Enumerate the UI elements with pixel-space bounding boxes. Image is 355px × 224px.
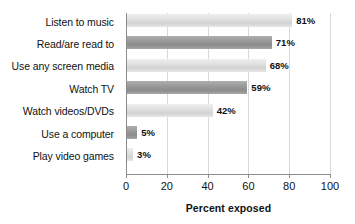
- x-tick-mark: [167, 174, 168, 178]
- top-cropped-artifact: [180, 0, 300, 5]
- x-tick-mark: [289, 174, 290, 178]
- x-tick-label: 0: [106, 180, 146, 192]
- bar-value-label: 59%: [251, 81, 270, 94]
- category-label: Read/are read to: [37, 38, 114, 51]
- x-tick-label: 20: [147, 180, 187, 192]
- bar: [127, 81, 247, 94]
- bar: [127, 14, 292, 27]
- bar-value-label: 42%: [217, 104, 236, 117]
- bar: [127, 126, 137, 139]
- bar-value-label: 5%: [141, 126, 155, 139]
- x-tick-label: 100: [310, 180, 350, 192]
- x-axis-line: [126, 174, 331, 175]
- category-label: Listen to music: [45, 16, 114, 29]
- x-tick-label: 60: [228, 180, 268, 192]
- x-tick-label: 80: [269, 180, 309, 192]
- bar: [127, 104, 213, 117]
- bar-chart: Listen to musicRead/are read toUse any s…: [0, 0, 355, 224]
- category-label: Play video games: [33, 150, 114, 163]
- category-label: Use any screen media: [12, 60, 114, 73]
- bar: [127, 36, 272, 49]
- x-tick-mark: [330, 174, 331, 178]
- bar-value-label: 81%: [296, 14, 315, 27]
- bar-value-label: 71%: [276, 36, 295, 49]
- bar-value-label: 3%: [137, 148, 151, 161]
- plot-area: 81%71%68%59%42%5%3%: [126, 13, 330, 174]
- x-tick-mark: [208, 174, 209, 178]
- x-tick-mark: [126, 174, 127, 178]
- x-tick-label: 40: [188, 180, 228, 192]
- bar: [127, 59, 266, 72]
- category-label: Watch TV: [69, 83, 114, 96]
- bar-value-label: 68%: [270, 59, 289, 72]
- category-label: Use a computer: [41, 128, 114, 141]
- category-label: Watch videos/DVDs: [23, 105, 114, 118]
- x-axis-title: Percent exposed: [126, 202, 331, 214]
- gridline: [330, 13, 331, 174]
- x-tick-mark: [248, 174, 249, 178]
- bar: [127, 148, 133, 161]
- category-axis-labels: Listen to musicRead/are read toUse any s…: [0, 14, 118, 172]
